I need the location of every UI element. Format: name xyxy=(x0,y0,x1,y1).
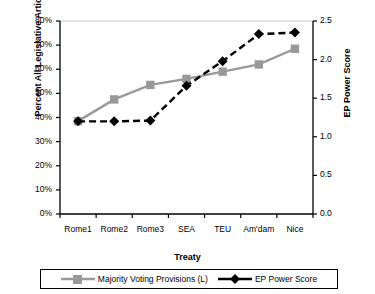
chart-legend: Majority Voting Provisions (L) EP Power … xyxy=(40,269,338,289)
y-axis-label-right: EP Power Score xyxy=(342,23,352,143)
y-tick-label-right: 1.5 xyxy=(320,92,346,102)
legend-label: Majority Voting Provisions (L) xyxy=(98,274,208,284)
x-tick-label: TEU xyxy=(214,224,231,234)
y-tick-label-left: 30% xyxy=(22,136,52,146)
square-marker-icon xyxy=(61,273,95,285)
data-point-marker xyxy=(255,60,263,68)
legend-item-ep-power-score: EP Power Score xyxy=(218,273,317,285)
y-tick-label-left: 0% xyxy=(22,208,52,218)
y-tick-label-left: 40% xyxy=(22,112,52,122)
x-tick-label: Nice xyxy=(286,224,303,234)
x-axis-label: Treaty xyxy=(0,252,375,262)
legend-item-majority-voting: Majority Voting Provisions (L) xyxy=(61,273,208,285)
x-tick-label: Am'dam xyxy=(243,224,274,234)
data-point-marker xyxy=(110,95,118,103)
y-tick-label-left: 50% xyxy=(22,87,52,97)
legend-label: EP Power Score xyxy=(255,274,317,284)
y-tick-label-right: 1.0 xyxy=(320,131,346,141)
y-tick-label-left: 20% xyxy=(22,160,52,170)
data-point-marker xyxy=(254,29,264,39)
x-tick-label: Rome3 xyxy=(137,224,164,234)
y-tick-label-right: 2.5 xyxy=(320,15,346,25)
y-tick-label-left: 10% xyxy=(22,184,52,194)
y-tick-label-left: 80% xyxy=(22,15,52,25)
data-point-marker xyxy=(218,67,226,75)
x-tick-label: Rome2 xyxy=(101,224,128,234)
y-tick-label-right: 0.5 xyxy=(320,169,346,179)
y-tick-label-left: 70% xyxy=(22,39,52,49)
data-point-marker xyxy=(291,45,299,53)
y-tick-label-left: 60% xyxy=(22,63,52,73)
chart-container: Percent All Legislative Articles EP Powe… xyxy=(0,0,375,294)
x-tick-label: SEA xyxy=(178,224,195,234)
y-tick-label-right: 0.0 xyxy=(320,208,346,218)
x-tick-label: Rome1 xyxy=(64,224,91,234)
data-point-marker xyxy=(290,28,300,38)
y-tick-label-right: 2.0 xyxy=(320,54,346,64)
plot-area xyxy=(0,0,375,294)
data-point-marker xyxy=(109,116,119,126)
diamond-marker-icon xyxy=(218,273,252,285)
data-point-marker xyxy=(146,81,154,89)
